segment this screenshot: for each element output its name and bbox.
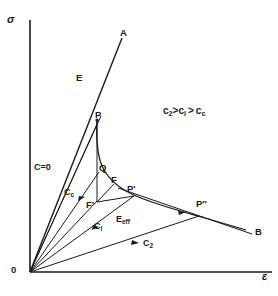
label-F-prime: F' bbox=[86, 200, 94, 210]
inequality-annotation: c2>cl>cc bbox=[163, 106, 205, 117]
label-P-double-prime: P″ bbox=[196, 199, 207, 209]
diagram-canvas bbox=[0, 0, 278, 296]
label-A: A bbox=[120, 28, 127, 38]
y-axis-label: σ bbox=[7, 14, 14, 25]
origin-label: 0 bbox=[11, 265, 16, 275]
label-F: F bbox=[111, 175, 117, 185]
line-B bbox=[118, 188, 252, 234]
ray-c2 bbox=[30, 216, 199, 272]
annotation-gt2: > bbox=[186, 105, 196, 116]
origin-rays-group bbox=[30, 38, 199, 272]
label-P-prime: P' bbox=[127, 184, 136, 194]
label-c-critical: Cc bbox=[64, 188, 74, 198]
label-E: E bbox=[76, 73, 82, 83]
arrowhead-cc bbox=[78, 196, 85, 201]
arrowhead-c2 bbox=[131, 240, 139, 245]
label-c-two-sub: 2 bbox=[150, 242, 154, 249]
label-e-effective-sub: eff bbox=[122, 218, 130, 225]
label-B: B bbox=[255, 227, 262, 237]
x-axis-label: ε bbox=[262, 271, 267, 282]
stress-strain-figure: σ ε 0 A B E P Q F F' P' P″ C=0 Cc Cl C2 … bbox=[0, 0, 278, 296]
label-c-equals-zero: C=0 bbox=[34, 163, 51, 172]
label-c-two: C2 bbox=[143, 239, 153, 249]
label-c-critical-sub: c bbox=[71, 191, 75, 198]
label-c-limit: Cl bbox=[94, 222, 102, 232]
chord-Fprime-to-Pprime bbox=[97, 196, 134, 202]
label-c-limit-sub: l bbox=[101, 225, 103, 232]
label-P: P bbox=[95, 110, 101, 120]
label-Q: Q bbox=[99, 163, 106, 173]
annotation-cc-sub: c bbox=[201, 109, 205, 118]
label-e-effective: Eeff bbox=[116, 215, 130, 225]
